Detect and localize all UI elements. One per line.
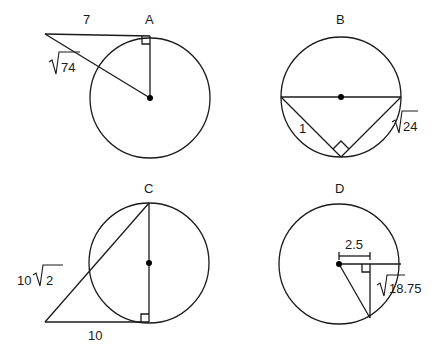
right-angle-mark-c xyxy=(141,314,149,322)
figure-c-label: C xyxy=(144,181,153,196)
center-dot-a xyxy=(147,95,153,101)
tangent-segment-a xyxy=(45,34,150,36)
sqrt-label-b: 24 xyxy=(392,111,418,134)
figure-d: D 2.5 18.75 xyxy=(279,181,422,324)
figure-b-label: B xyxy=(336,12,345,27)
svg-text:2: 2 xyxy=(46,273,53,288)
sqrt-label-d: 18.75 xyxy=(377,275,422,296)
figure-a-tangent-length: 7 xyxy=(83,12,90,27)
long-leg-b xyxy=(341,97,401,157)
right-angle-mark-d xyxy=(362,264,370,272)
geometry-figures: A 7 74 B 1 24 C 10 xyxy=(0,0,435,350)
figure-a: A 7 74 xyxy=(45,12,210,158)
short-leg-label-b: 1 xyxy=(299,121,306,136)
figure-b: B 1 24 xyxy=(281,12,418,157)
short-leg-b xyxy=(281,97,341,157)
sqrt-label-a: 74 xyxy=(49,52,80,75)
center-dot-d xyxy=(336,261,342,267)
figure-a-label: A xyxy=(145,12,154,27)
sqrt-label-c: 10 2 xyxy=(17,265,63,288)
figure-d-label: D xyxy=(335,181,344,196)
center-dot-b xyxy=(338,94,344,100)
right-angle-mark-b xyxy=(333,141,349,149)
dimension-bar-d xyxy=(339,252,370,260)
right-angle-mark-a xyxy=(142,36,150,44)
center-dot-c xyxy=(146,260,152,266)
hypotenuse-c xyxy=(45,203,149,322)
svg-text:24: 24 xyxy=(403,119,417,134)
figure-c: C 10 10 2 xyxy=(17,181,209,343)
base-label-c: 10 xyxy=(88,328,102,343)
svg-text:74: 74 xyxy=(61,60,75,75)
svg-text:10: 10 xyxy=(17,273,31,288)
horizontal-length-label-d: 2.5 xyxy=(345,237,363,252)
svg-text:18.75: 18.75 xyxy=(389,281,422,296)
